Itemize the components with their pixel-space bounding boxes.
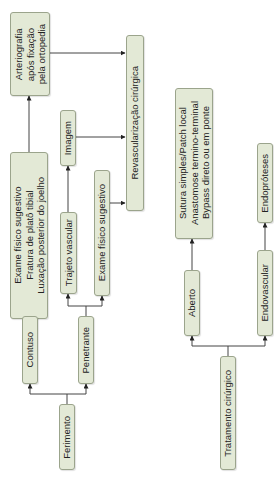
text-line: Fratura de platô tibial (23, 177, 35, 294)
text-line: pela ortopedia (36, 24, 48, 84)
node-contuso: Contuso (22, 316, 38, 384)
node-ferimento: Ferimento (59, 404, 75, 470)
node-exame-fisico-penetrante: Exame físico sugestivo (94, 170, 110, 296)
text-line: Sutura simples/Patch local (177, 101, 189, 225)
node-aberto-options: Sutura simples/Patch local Anastomose te… (175, 88, 213, 239)
node-revascularizacao: Revascularização cirúrgica (126, 35, 144, 211)
node-text: Arteriografia após fixação pela ortopedi… (13, 24, 48, 84)
node-endovascular: Endovascular (257, 250, 273, 336)
node-contuso-findings: Exame físico sugestivo Fratura de platô … (10, 152, 48, 319)
text-line: Exame físico sugestivo (12, 177, 24, 294)
text-line: Luxação posterior do joelho (35, 177, 47, 294)
node-trajeto-vascular: Trajeto vascular (60, 212, 77, 294)
node-text: Endopróteses (259, 154, 271, 213)
node-endoproteses: Endopróteses (257, 143, 273, 223)
node-text: Sutura simples/Patch local Anastomose te… (177, 101, 212, 225)
node-aberto: Aberto (184, 270, 200, 336)
node-text: Revascularização cirúrgica (129, 66, 141, 180)
node-arteriografia: Arteriografia após fixação pela ortopedi… (10, 12, 50, 96)
text-line: Bypass direto ou em ponte (200, 101, 212, 225)
text-line: Anastomose termino-terminal (188, 101, 200, 225)
node-text: Exame físico sugestivo (96, 184, 108, 281)
node-imagem: Imagem (60, 110, 76, 166)
node-text: Exame físico sugestivo Fratura de platô … (12, 177, 47, 294)
node-text: Endovascular (259, 264, 271, 322)
node-tratamento-cirurgico: Tratamento cirúrgico (220, 356, 236, 470)
node-text: Imagem (62, 121, 74, 155)
node-text: Contuso (24, 332, 36, 367)
node-text: Trajeto vascular (63, 219, 75, 286)
text-line: Arteriografia (13, 24, 25, 84)
text-line: após fixação (24, 24, 36, 84)
node-text: Aberto (186, 289, 198, 317)
node-text: Tratamento cirúrgico (222, 370, 234, 457)
node-penetrante: Penetrante (78, 316, 94, 384)
node-text: Ferimento (61, 416, 73, 459)
node-text: Penetrante (80, 327, 92, 373)
